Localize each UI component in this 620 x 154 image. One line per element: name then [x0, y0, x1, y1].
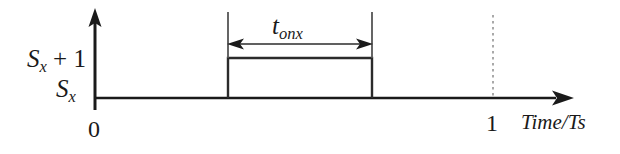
y-axis-high-level-subscript: x [40, 57, 47, 76]
y-axis-high-level-label: Sx + 1 [27, 46, 86, 76]
x-axis-group [95, 91, 574, 106]
pulse-width-label: tonx [272, 13, 303, 43]
switching-waveform-figure: Sx + 1 Sx 0 tonx 1 Time/Ts [0, 0, 620, 154]
x-axis-tick-label-1: 1 [486, 111, 498, 135]
pulse-outline [228, 58, 372, 98]
y-axis-group [89, 8, 102, 110]
pulse-width-subscript: onx [279, 24, 303, 43]
x-axis-title: Time/Ts [521, 112, 586, 133]
origin-label: 0 [88, 117, 100, 141]
pulse-waveform [228, 58, 372, 98]
y-axis-low-level-subscript: x [69, 87, 76, 106]
y-axis-low-level-base: S [56, 75, 69, 102]
pulse-width-base: t [272, 12, 279, 39]
y-axis-high-level-operator: + 1 [53, 45, 86, 72]
y-axis-high-level-base: S [27, 45, 40, 72]
y-axis-low-level-label: Sx [56, 76, 76, 106]
